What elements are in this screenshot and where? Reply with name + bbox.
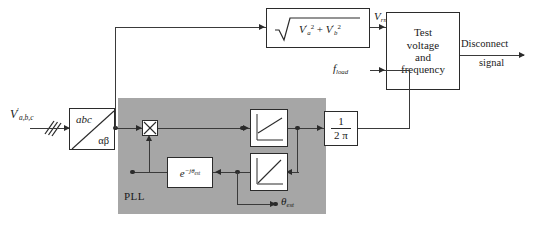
wire-multiplier-to-integrator-top: [158, 128, 250, 129]
saturation-curve-icon: [252, 111, 286, 145]
wire-fload-up: [409, 70, 410, 128]
block-diagram-canvas: PLL V′a,b,c abc αβ V′a2 + V′b2: [0, 0, 546, 236]
phase-shift-block[interactable]: e−jθest: [167, 157, 213, 188]
multiplier-block[interactable]: [142, 120, 158, 136]
rms-vb: V: [326, 23, 333, 35]
junction-feedback-corner: [130, 170, 135, 175]
test-voltage-frequency-block[interactable]: Test voltage and frequency: [386, 12, 460, 90]
test-line-1: Test: [414, 26, 432, 38]
pll-label: PLL: [124, 190, 145, 202]
abc-alphabeta-transform-block[interactable]: abc αβ: [69, 108, 115, 150]
wire-phase-shift-out: [132, 172, 167, 173]
arrow-into-test-top: [379, 24, 385, 30]
junction-feedback-top: [295, 126, 300, 131]
input-sub: a,b,c: [19, 113, 33, 122]
theta-sub: est: [286, 201, 294, 208]
wire-theta-down: [237, 172, 238, 205]
test-line-2: voltage: [407, 39, 439, 51]
rms-expression: V′a2 + V′b2: [299, 23, 341, 36]
integrator-top-block[interactable]: [250, 109, 288, 147]
junction-integrator-top-in: [240, 126, 245, 131]
gain-numerator: 1: [338, 116, 344, 128]
arrow-into-rms: [259, 24, 265, 30]
integrator-bottom-block[interactable]: [250, 153, 288, 191]
gain-block[interactable]: 1 2 π: [324, 111, 358, 146]
disconnect-label-line1: Disconnect: [461, 38, 508, 49]
wire-feedback-down: [297, 128, 298, 173]
wire-branch-up-to-rms: [115, 27, 116, 128]
wire-feedback-up-to-multiplier: [149, 138, 150, 172]
vrms-base: V: [374, 10, 381, 22]
exp-exponent: −jθ: [185, 167, 195, 174]
multiply-icon: [142, 120, 158, 136]
exp-exponent-sub: est: [195, 170, 201, 176]
fload-sub: load: [336, 68, 348, 75]
gain-denominator: 2 π: [331, 128, 351, 141]
rms-plus: +: [317, 23, 323, 35]
arrow-into-phase-shift: [215, 169, 221, 175]
rms-magnitude-block[interactable]: V′a2 + V′b2: [266, 8, 370, 48]
arrow-into-multiplier-bottom: [146, 135, 152, 141]
alphabeta-label: αβ: [98, 135, 109, 146]
arrow-disconnect-signal: [519, 52, 525, 58]
fload-label: fload: [333, 62, 348, 75]
arrow-into-gain: [317, 125, 323, 131]
theta-est-terminal-dot: [273, 202, 278, 207]
arrow-into-test-bottom: [379, 67, 385, 73]
theta-est-label: θest: [281, 195, 294, 208]
disconnect-label-line2: signal: [479, 57, 504, 68]
wire-gain-right: [358, 128, 410, 129]
phase-shift-expression: e−jθest: [180, 167, 200, 179]
ramp-curve-icon: [252, 155, 286, 189]
rms-vb-pow: 2: [337, 23, 340, 30]
rms-va: V: [299, 23, 306, 35]
rms-va-pow: 2: [311, 23, 314, 30]
test-line-3: and: [415, 51, 431, 63]
abc-label: abc: [76, 113, 92, 125]
input-signal-label: V′a,b,c: [10, 107, 33, 122]
wire-to-rms-block: [115, 27, 266, 28]
